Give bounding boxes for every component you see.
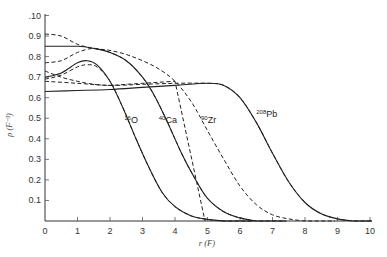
curve-40ca-dashed- xyxy=(45,48,286,221)
curve-16o-dashed- xyxy=(45,65,254,221)
y-tick-label: 0.1 xyxy=(28,195,41,205)
y-tick-label: 0.2 xyxy=(28,175,41,185)
x-tick-label: 4 xyxy=(172,226,177,236)
curve-90zr-dashed-inner- xyxy=(45,71,205,221)
x-tick-label: 8 xyxy=(302,226,307,236)
curve-90zr xyxy=(45,34,335,221)
x-axis-title: r (F) xyxy=(199,238,215,248)
y-axis-title: ρ (F⁻³) xyxy=(4,113,14,138)
x-tick-label: 3 xyxy=(140,226,145,236)
x-tick-label: 2 xyxy=(107,226,112,236)
y-tick-label: 0.8 xyxy=(28,52,41,62)
curve-208pb xyxy=(45,83,372,221)
isotope-label-ca: 40Ca xyxy=(159,115,177,125)
y-tick-label: 0.4 xyxy=(28,134,41,144)
y-tick-label: 0.7 xyxy=(28,72,41,82)
x-tick-label: 7 xyxy=(270,226,275,236)
curves xyxy=(45,34,372,221)
isotope-label-o: 16O xyxy=(124,115,138,125)
y-tick-label: 0.9 xyxy=(28,31,41,41)
isotope-label-pb: 208Pb xyxy=(256,109,277,119)
x-tick-label: 0 xyxy=(42,226,47,236)
x-tick-label: 6 xyxy=(237,226,242,236)
y-tick-label: 0.5 xyxy=(28,113,41,123)
y-tick-label: 0.6 xyxy=(28,93,41,103)
y-tick-label: 0.3 xyxy=(28,154,41,164)
x-tick-label: 5 xyxy=(205,226,210,236)
isotope-labels: 16O40Ca90Zr208Pb xyxy=(124,109,277,125)
x-tick-label: 9 xyxy=(335,226,340,236)
y-tick-label: .10 xyxy=(28,11,41,21)
density-chart: 012345678910.100.90.80.70.60.50.40.30.20… xyxy=(0,0,387,257)
x-tick-label: 10 xyxy=(365,226,375,236)
x-tick-label: 1 xyxy=(75,226,80,236)
curve-40ca xyxy=(45,46,286,221)
